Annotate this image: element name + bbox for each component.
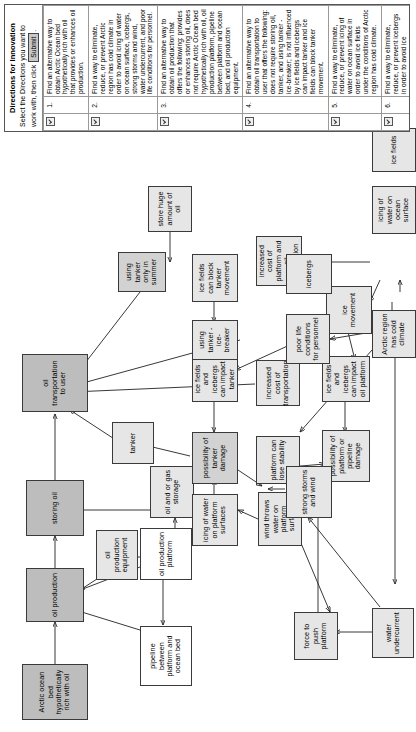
- node-strong-storms[interactable]: strong storms and wind: [286, 466, 332, 518]
- table-row[interactable]: 6. Find a way to eliminate, reduce, or p…: [381, 6, 410, 131]
- directions-header: Directions for Innovation Select the Dir…: [5, 5, 43, 131]
- direction-number: 2.: [89, 97, 158, 114]
- table-row[interactable]: 5. Find a way to eliminate, reduce, or p…: [328, 6, 381, 131]
- table-row[interactable]: 2. Find a way to eliminate, reduce, or p…: [89, 6, 158, 131]
- checkbox-icon[interactable]: [245, 118, 254, 127]
- node-icing-ocean[interactable]: icing of water on ocean surface: [372, 186, 416, 234]
- node-arctic-cold[interactable]: Arctic region has cold climate: [372, 310, 416, 358]
- direction-text: Find a way to eliminate, reduce, or prev…: [89, 6, 158, 97]
- direction-number: 1.: [43, 97, 89, 114]
- node-ice-impact-tanker[interactable]: ice fields and icebergs can impact tanke…: [192, 356, 238, 402]
- table-row[interactable]: 4. Find an alternative way to obtain oil…: [243, 6, 328, 131]
- node-oil-gas-storage[interactable]: oil and or gas storage: [150, 466, 194, 518]
- direction-text: Find a way to eliminate, reduce, or prev…: [381, 6, 410, 97]
- node-ice-fields[interactable]: ice fields: [372, 128, 416, 172]
- direction-text: Find an alternative way to obtain oil pr…: [158, 6, 243, 97]
- directions-table-body: 1. Find an alternative way to obtain Arc…: [43, 6, 410, 131]
- direction-checkbox-cell[interactable]: [43, 114, 89, 131]
- directions-for-innovation-panel: Directions for Innovation Select the Dir…: [4, 4, 410, 132]
- direction-checkbox-cell[interactable]: [381, 114, 410, 131]
- node-oil-production[interactable]: oil production: [26, 568, 84, 622]
- node-using-ice-breaker[interactable]: using tanker - ice-breaker: [192, 320, 238, 360]
- node-ice-breaker-block[interactable]: ice fields can block tanker movement: [192, 254, 238, 302]
- node-water-undercurrent[interactable]: water undercurrent: [372, 608, 414, 658]
- direction-text: Find an alternative way to obtain Arctic…: [43, 6, 89, 97]
- node-ice-movement[interactable]: ice movement: [326, 286, 372, 334]
- node-oil-equipment[interactable]: oil production equipment: [96, 530, 138, 580]
- submit-button[interactable]: Submit: [28, 33, 39, 62]
- node-oil-transportation[interactable]: oil transportation to user: [22, 354, 88, 412]
- page-root: Arctic ocean bed hypothetically rich wit…: [0, 0, 416, 732]
- direction-checkbox-cell[interactable]: [89, 114, 158, 131]
- node-storing-oil[interactable]: storing oil: [26, 480, 84, 536]
- direction-number: 4.: [243, 97, 328, 114]
- direction-number: 6.: [381, 97, 410, 114]
- direction-checkbox-cell[interactable]: [158, 114, 243, 131]
- node-summer-only[interactable]: using tanker only in summer: [118, 252, 166, 292]
- checkbox-icon[interactable]: [91, 118, 100, 127]
- instruction-post-text: .: [30, 30, 37, 32]
- table-row[interactable]: 1. Find an alternative way to obtain Arc…: [43, 6, 89, 131]
- table-row[interactable]: 3. Find an alternative way to obtain oil…: [158, 6, 243, 131]
- node-poor-life[interactable]: poor life conditions for personnel: [286, 314, 330, 364]
- node-icebergs-box[interactable]: icebergs: [286, 254, 332, 294]
- directions-title: Directions for Innovation: [8, 9, 17, 127]
- node-arctic-bed[interactable]: Arctic ocean bed hypothetically rich wit…: [22, 664, 88, 720]
- node-oil-platform[interactable]: oil production platform: [140, 528, 192, 580]
- direction-checkbox-cell[interactable]: [328, 114, 381, 131]
- node-possibility-of-tanker-damage[interactable]: possibility of tanker damage: [192, 432, 238, 484]
- node-cost-transportation[interactable]: increased cost of transportation: [256, 360, 300, 406]
- directions-instruction: Select the Directions you want to work w…: [19, 9, 39, 127]
- node-force-push[interactable]: force to push platform: [294, 612, 338, 660]
- direction-text: Find an alternative way to obtain oil tr…: [243, 6, 328, 97]
- node-store-huge[interactable]: store huge amount of oil: [148, 186, 192, 232]
- directions-table: 1. Find an alternative way to obtain Arc…: [43, 5, 410, 131]
- direction-checkbox-cell[interactable]: [243, 114, 328, 131]
- checkbox-icon[interactable]: [160, 118, 169, 127]
- direction-text: Find a way to eliminate, reduce, or prev…: [328, 6, 381, 97]
- node-icing-platform[interactable]: icing of water on platform surfaces: [192, 494, 238, 546]
- direction-number: 3.: [158, 97, 243, 114]
- checkbox-icon[interactable]: [46, 118, 55, 127]
- node-tanker[interactable]: tanker: [112, 422, 154, 464]
- checkbox-icon[interactable]: [331, 118, 340, 127]
- node-pipeline[interactable]: pipeline between platform and ocean bed: [140, 626, 192, 686]
- checkbox-icon[interactable]: [384, 118, 393, 127]
- direction-number: 5.: [328, 97, 381, 114]
